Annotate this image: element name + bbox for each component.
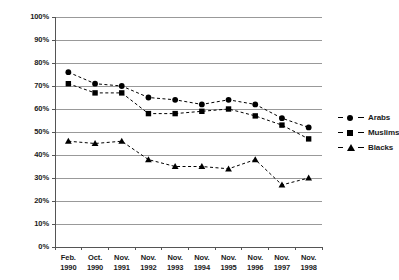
x-axis-label-part: Nov. bbox=[215, 253, 242, 263]
x-axis-label-part: Oct. bbox=[82, 253, 109, 263]
y-axis-label: 60% bbox=[0, 105, 49, 113]
data-point bbox=[146, 95, 152, 101]
series-blacks bbox=[65, 138, 312, 188]
x-axis-label-part: 1991 bbox=[108, 263, 135, 273]
y-axis-label: 90% bbox=[0, 36, 49, 44]
x-axis-label-part: 1997 bbox=[269, 263, 296, 273]
x-axis-label-part: Nov. bbox=[189, 253, 216, 263]
legend-line-sample bbox=[338, 113, 364, 122]
x-axis-label: Nov.1993 bbox=[162, 253, 189, 273]
x-axis-label-part: 1992 bbox=[135, 263, 162, 273]
data-point bbox=[279, 182, 286, 188]
x-axis-label: Nov.1995 bbox=[215, 253, 242, 273]
data-point bbox=[306, 136, 311, 141]
legend-item-blacks[interactable]: Blacks bbox=[338, 140, 399, 155]
legend-label: Muslims bbox=[368, 128, 399, 137]
data-point bbox=[118, 138, 125, 144]
data-point bbox=[279, 115, 285, 121]
legend-line-sample bbox=[338, 128, 364, 137]
data-point bbox=[225, 165, 232, 171]
data-point bbox=[172, 111, 177, 116]
data-point bbox=[92, 90, 97, 95]
data-point bbox=[226, 97, 232, 103]
data-point bbox=[252, 102, 258, 108]
x-axis-label-part: 1993 bbox=[162, 263, 189, 273]
data-point bbox=[199, 102, 205, 108]
y-axis-label: 0% bbox=[0, 243, 49, 251]
legend-marker-circle-icon bbox=[347, 113, 353, 121]
x-axis-label: Nov.1997 bbox=[269, 253, 296, 273]
legend-item-muslims[interactable]: Muslims bbox=[338, 125, 399, 140]
data-point bbox=[306, 125, 312, 131]
x-axis-label: Nov.1998 bbox=[295, 253, 322, 273]
data-point bbox=[253, 113, 258, 118]
x-axis-label-part: Nov. bbox=[269, 253, 296, 263]
x-axis-label-part: Nov. bbox=[242, 253, 269, 263]
data-point bbox=[226, 106, 231, 111]
x-axis-label-part: Nov. bbox=[135, 253, 162, 263]
series-line bbox=[68, 72, 308, 127]
x-axis-label: Nov.1992 bbox=[135, 253, 162, 273]
legend-label: Blacks bbox=[368, 143, 393, 152]
data-point bbox=[119, 90, 124, 95]
x-axis-label-part: 1990 bbox=[82, 263, 109, 273]
data-point bbox=[252, 156, 259, 162]
legend-item-arabs[interactable]: Arabs bbox=[338, 110, 399, 125]
data-point bbox=[172, 97, 178, 103]
x-axis-label: Feb.1990 bbox=[55, 253, 82, 273]
x-axis-label: Nov.1991 bbox=[108, 253, 135, 273]
data-point bbox=[279, 122, 284, 127]
y-axis-label: 10% bbox=[0, 220, 49, 228]
series-line bbox=[68, 84, 308, 139]
data-point bbox=[66, 81, 71, 86]
y-axis-label: 20% bbox=[0, 197, 49, 205]
legend-marker-triangle-icon bbox=[347, 143, 355, 151]
y-axis-label: 100% bbox=[0, 13, 49, 21]
x-axis-label: Oct.1990 bbox=[82, 253, 109, 273]
x-axis-label-part: 1996 bbox=[242, 263, 269, 273]
x-axis-label-part: Nov. bbox=[108, 253, 135, 263]
y-axis-label: 50% bbox=[0, 128, 49, 136]
data-point bbox=[145, 156, 152, 162]
y-axis-label: 40% bbox=[0, 151, 49, 159]
data-point bbox=[146, 111, 151, 116]
x-axis-label-part: Nov. bbox=[295, 253, 322, 263]
x-axis-label-part: 1990 bbox=[55, 263, 82, 273]
x-axis-label-part: Nov. bbox=[162, 253, 189, 263]
data-point bbox=[65, 69, 71, 75]
legend-label: Arabs bbox=[368, 113, 390, 122]
legend-marker-square-icon bbox=[347, 128, 353, 136]
x-axis-label: Nov.1994 bbox=[189, 253, 216, 273]
x-axis-label-part: 1998 bbox=[295, 263, 322, 273]
x-axis-label-part: Feb. bbox=[55, 253, 82, 263]
x-axis-label: Nov.1996 bbox=[242, 253, 269, 273]
data-point bbox=[92, 81, 98, 87]
y-axis-label: 80% bbox=[0, 59, 49, 67]
y-axis-label: 30% bbox=[0, 174, 49, 182]
x-axis-label-part: 1995 bbox=[215, 263, 242, 273]
series-muslims bbox=[66, 81, 312, 142]
chart-legend: ArabsMuslimsBlacks bbox=[338, 110, 399, 155]
x-axis-label-part: 1994 bbox=[189, 263, 216, 273]
legend-line-sample bbox=[338, 143, 364, 152]
data-point bbox=[199, 109, 204, 114]
y-axis-label: 70% bbox=[0, 82, 49, 90]
data-point bbox=[119, 83, 125, 89]
series-arabs bbox=[65, 69, 311, 130]
data-point bbox=[65, 138, 72, 144]
